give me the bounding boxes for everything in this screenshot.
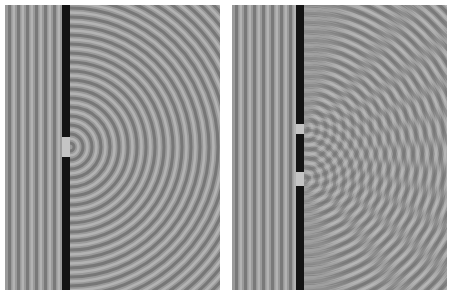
single-slit-panel	[5, 5, 220, 290]
single-slit-diffraction-image	[5, 5, 220, 290]
double-slit-panel	[232, 5, 447, 290]
double-slit-interference-image	[232, 5, 447, 290]
